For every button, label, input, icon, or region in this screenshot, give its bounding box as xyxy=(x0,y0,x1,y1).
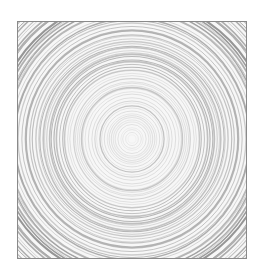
rings-image-frame xyxy=(17,21,247,259)
concentric-rings-image xyxy=(18,22,246,258)
